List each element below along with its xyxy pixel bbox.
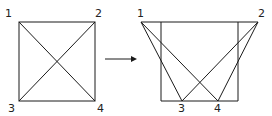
right-figure <box>141 22 258 101</box>
arrow-right-icon <box>105 56 137 62</box>
right-line-2-3 <box>182 22 258 101</box>
right-label-2: 2 <box>258 7 265 20</box>
diagram-canvas: 1 2 3 4 1 2 3 4 <box>0 0 272 116</box>
left-figure <box>19 22 95 101</box>
right-label-1: 1 <box>137 7 144 20</box>
right-label-4: 4 <box>214 102 221 115</box>
left-label-2: 2 <box>95 7 102 20</box>
right-label-3: 3 <box>178 102 185 115</box>
right-line-1-4 <box>141 22 218 101</box>
left-label-4: 4 <box>97 102 104 115</box>
left-label-1: 1 <box>5 7 12 20</box>
left-label-3: 3 <box>8 102 15 115</box>
